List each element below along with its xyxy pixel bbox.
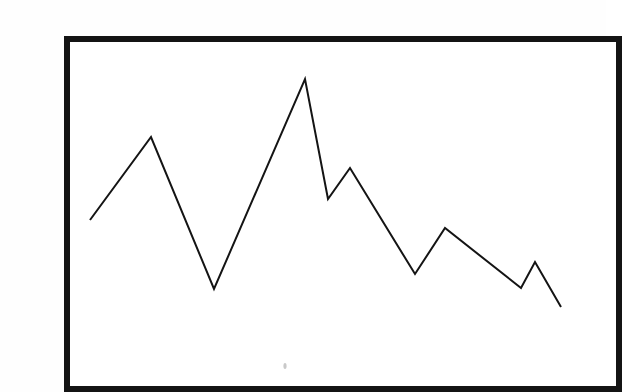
chart-canvas [40, 16, 626, 392]
scan-artifact-speck [283, 363, 286, 369]
chart-frame-border [67, 39, 619, 389]
line-chart-figure: Hand-drawn zig-zag line chart inside a t… [40, 16, 626, 392]
